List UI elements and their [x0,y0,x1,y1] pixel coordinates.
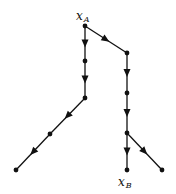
node-R1 [125,51,130,56]
node-L3 [48,132,53,137]
arrow-icon [124,148,131,156]
node-A [83,24,88,29]
node-B [125,168,130,173]
node-R2 [125,91,130,96]
tree-diagram: xA xB [0,0,176,194]
arrow-icon [82,40,89,48]
node-R3 [125,131,130,136]
edges [16,26,162,170]
node-L4 [14,168,19,173]
arrow-icon [124,109,131,117]
node-L2 [83,96,88,101]
label-x-b: xB [118,175,132,190]
label-x-a: xA [76,9,90,24]
arrow-icon [124,69,131,77]
node-R4 [160,168,165,173]
node-L1 [83,59,88,64]
arrow-icon [82,76,89,84]
arrow-icon [101,34,112,44]
